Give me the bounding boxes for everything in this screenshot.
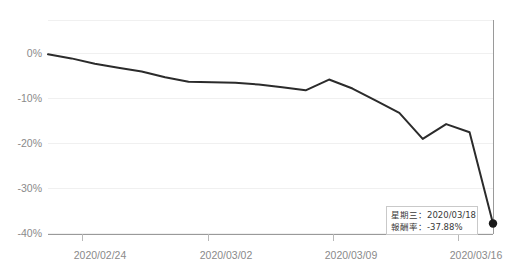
tooltip-date-separator: ： [418, 210, 427, 220]
x-axis-ticks [82, 234, 458, 241]
x-tick-label: 2020/03/16 [450, 249, 503, 261]
x-tick-label: 2020/03/09 [325, 249, 378, 261]
tooltip-return-value: -37.88% [427, 222, 462, 232]
y-tick-label: -10% [17, 92, 42, 104]
tooltip-date-row: 星期三：2020/03/18 [391, 209, 473, 221]
y-axis-labels: 0% -10% -20% -30% -40% [17, 47, 42, 239]
chart-canvas: 0% -10% -20% -30% -40% 2020/02/24 2020/0… [0, 0, 519, 278]
x-tick-label: 2020/02/24 [74, 249, 127, 261]
gridlines [48, 20, 493, 233]
tooltip-return-separator: ： [418, 222, 427, 232]
data-point-tooltip: 星期三：2020/03/18 報酬率：-37.88% [386, 206, 478, 235]
tooltip-date-value: 2020/03/18 [427, 210, 476, 220]
endpoint-marker-dot[interactable] [489, 219, 497, 227]
y-tick-label: -40% [17, 227, 42, 239]
tooltip-weekday-label: 星期三 [391, 210, 418, 220]
return-rate-line-chart: 0% -10% -20% -30% -40% 2020/02/24 2020/0… [0, 0, 519, 278]
y-tick-label: -30% [17, 182, 42, 194]
series-line-return-rate [48, 54, 493, 223]
y-tick-label: -20% [17, 137, 42, 149]
tooltip-return-row: 報酬率：-37.88% [391, 221, 473, 233]
tooltip-return-label: 報酬率 [391, 222, 418, 232]
x-tick-label: 2020/03/02 [200, 249, 253, 261]
y-tick-label: 0% [27, 47, 42, 59]
x-axis-labels: 2020/02/24 2020/03/02 2020/03/09 2020/03… [74, 249, 503, 261]
